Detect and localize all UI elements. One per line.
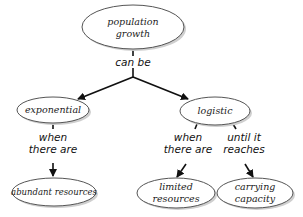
- link-label-exp-there-are: there are: [29, 143, 78, 155]
- node-label: abundant resources: [11, 187, 97, 197]
- link-label-until-it: until it: [227, 131, 262, 143]
- edge-log-left-stem: [195, 124, 197, 129]
- node-label: population: [107, 16, 158, 27]
- link-label-can-be: can be: [115, 56, 150, 68]
- node-label: resources: [152, 193, 199, 204]
- node-exponential: exponential: [17, 97, 91, 125]
- edge-to-carrying: [245, 164, 253, 177]
- node-label: exponential: [25, 104, 81, 115]
- link-label-exp-when: when: [39, 131, 67, 143]
- link-label-log-when: when: [174, 131, 202, 143]
- node-label: limited: [159, 181, 193, 192]
- node-abundant-resources: abundant resources: [11, 178, 98, 208]
- link-label-log-there-are: there are: [164, 143, 213, 155]
- node-label: carrying: [235, 181, 276, 192]
- concept-map: can be when there are when there are unt…: [0, 0, 303, 217]
- node-label: capacity: [235, 193, 276, 204]
- node-label: logistic: [198, 105, 234, 116]
- node-label: growth: [116, 28, 150, 39]
- link-label-reaches: reaches: [223, 143, 265, 155]
- node-logistic: logistic: [180, 97, 252, 127]
- ellipse-shape: [82, 5, 184, 49]
- edge-to-exponential: [78, 77, 133, 99]
- node-limited-resources: limited resources: [137, 178, 217, 210]
- node-carrying-capacity: carrying capacity: [217, 178, 295, 210]
- edge-to-logistic: [133, 77, 188, 99]
- node-population-growth: population growth: [82, 5, 186, 51]
- edge-to-limited: [177, 164, 186, 177]
